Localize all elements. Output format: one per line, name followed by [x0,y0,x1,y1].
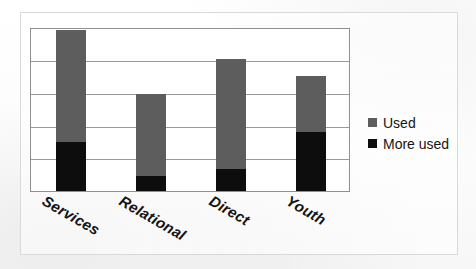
legend-item-used: Used [368,112,464,133]
legend-swatch-used-icon [368,118,377,127]
x-axis-label-direct: Direct [207,192,253,229]
legend-label-more-used: More used [383,136,449,152]
bar-segment-used-services [56,30,86,142]
chart-screenshot: Services Relational Direct Youth Used Mo… [0,0,476,269]
chart-legend: Used More used [368,112,464,154]
bar-segment-more-used-relational [136,176,166,191]
x-axis-label-services: Services [40,192,103,238]
bar-segment-used-youth [296,76,326,132]
bar-segment-more-used-youth [296,132,326,191]
legend-label-used: Used [383,115,416,131]
bars-layer [31,29,349,191]
bar-segment-used-relational [136,94,166,176]
legend-item-more-used: More used [368,133,464,154]
bar-segment-used-direct [216,59,246,169]
bar-segment-more-used-direct [216,169,246,191]
plot-area [30,28,350,192]
x-axis-label-youth: Youth [284,192,330,228]
x-axis-category-labels: Services Relational Direct Youth [30,192,350,262]
legend-swatch-more-used-icon [368,139,377,148]
bar-segment-more-used-services [56,142,86,191]
x-axis-label-relational: Relational [117,192,189,244]
